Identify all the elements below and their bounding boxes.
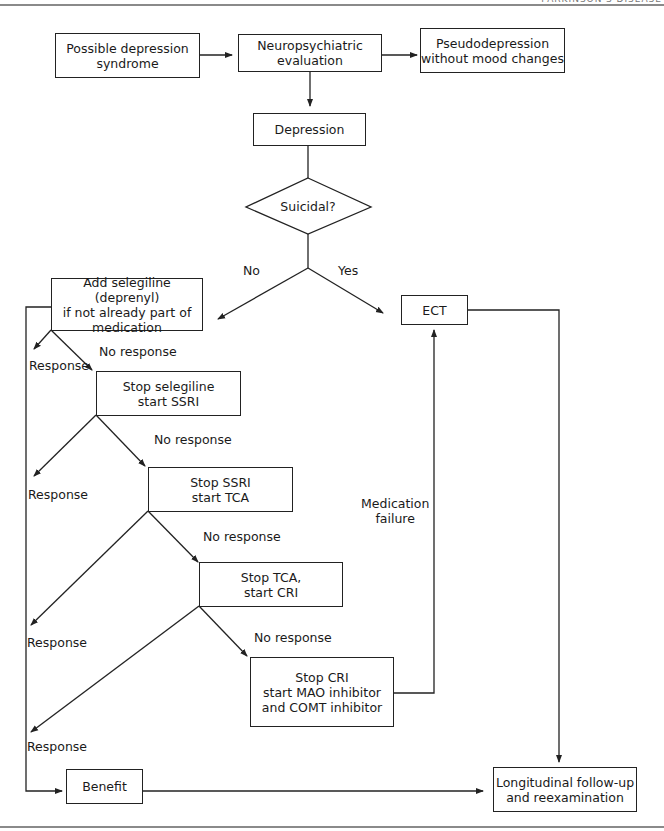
node-followup: Longitudinal follow-up and reexamination — [493, 767, 637, 812]
label-no-response-2: No response — [154, 432, 232, 447]
arrow-no — [218, 268, 308, 319]
node-benefit: Benefit — [66, 769, 143, 804]
node-suicidal: Suicidal? — [248, 199, 368, 214]
node-stop-cri: Stop CRI start MAO inhibitor and COMT in… — [250, 657, 394, 727]
node-depression: Depression — [253, 113, 366, 146]
label-no-response-1: No response — [99, 344, 177, 359]
label-response-4: Response — [27, 739, 87, 754]
label-response-2: Response — [28, 487, 88, 502]
arrow-ect-to-followup — [467, 310, 559, 762]
bottom-rule — [0, 826, 664, 828]
node-ect: ECT — [401, 295, 468, 325]
node-stop-ssri: Stop SSRI start TCA — [148, 467, 293, 512]
label-yes: Yes — [338, 263, 358, 278]
label-no: No — [243, 263, 260, 278]
arrow-trunk-to-benefit — [26, 307, 62, 791]
label-medication-failure: Medication failure — [361, 496, 429, 526]
node-stop-selegiline: Stop selegiline start SSRI — [96, 371, 241, 416]
label-no-response-4: No response — [254, 630, 332, 645]
node-pseudodepression: Pseudodepression without mood changes — [420, 28, 565, 73]
node-add-selegiline: Add selegiline (deprenyl) if not already… — [51, 278, 203, 331]
label-no-response-3: No response — [203, 529, 281, 544]
node-possible-depression: Possible depression syndrome — [55, 33, 200, 78]
node-stop-tca: Stop TCA, start CRI — [199, 562, 343, 607]
node-neuropsychiatric-evaluation: Neuropsychiatric evaluation — [238, 34, 382, 72]
label-response-3: Response — [27, 635, 87, 650]
label-response-1: Response — [29, 358, 89, 373]
